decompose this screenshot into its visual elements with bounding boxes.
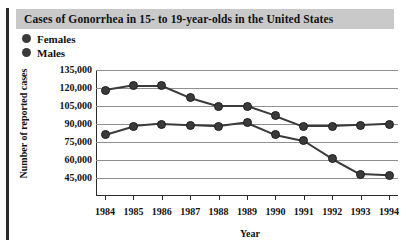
- data-point-females: [129, 81, 138, 90]
- y-axis-tick-label: 60,000: [34, 154, 92, 165]
- gridline: [96, 142, 398, 143]
- data-point-females: [186, 93, 195, 102]
- data-point-females: [328, 122, 337, 131]
- legend-label-females: Females: [37, 33, 75, 45]
- data-point-males: [271, 130, 280, 139]
- plot-area: [96, 70, 398, 187]
- chart-legend: Females Males: [22, 32, 75, 60]
- data-point-males: [356, 170, 365, 179]
- x-axis-tick: [105, 195, 106, 200]
- chart-title: Cases of Gonorrhea in 15- to 19-year-old…: [24, 10, 396, 28]
- data-point-males: [157, 120, 166, 129]
- data-point-females: [243, 102, 252, 111]
- gridline: [96, 88, 398, 89]
- y-axis-tick-label: 105,000: [34, 100, 92, 111]
- x-axis-tick: [247, 195, 248, 200]
- circle-marker-icon: [22, 34, 31, 43]
- chart-figure: Cases of Gonorrhea in 15- to 19-year-old…: [0, 0, 410, 246]
- data-point-males: [214, 122, 223, 131]
- data-point-females: [385, 120, 394, 129]
- data-point-males: [129, 122, 138, 131]
- x-axis-title: Year: [95, 228, 405, 239]
- x-axis-tick: [275, 195, 276, 200]
- x-axis-tick-label: 1994: [369, 206, 409, 217]
- x-axis-tick: [361, 195, 362, 200]
- x-axis-tick: [219, 195, 220, 200]
- data-point-males: [101, 130, 110, 139]
- x-axis-tick: [133, 195, 134, 200]
- y-axis-tick-label: 45,000: [34, 172, 92, 183]
- y-axis-tick-label: 75,000: [34, 136, 92, 147]
- y-axis-title: Number of reported cases: [18, 60, 29, 188]
- circle-marker-icon: [22, 48, 31, 57]
- x-axis-tick: [304, 195, 305, 200]
- data-point-males: [186, 121, 195, 130]
- data-point-males: [328, 154, 337, 163]
- x-axis-tick: [190, 195, 191, 200]
- left-border-rule: [6, 8, 9, 240]
- data-point-females: [299, 122, 308, 131]
- y-axis-tick-label: 120,000: [34, 82, 92, 93]
- x-axis-tick: [389, 195, 390, 200]
- gridline: [96, 70, 398, 71]
- data-point-males: [385, 171, 394, 180]
- gridline: [96, 178, 398, 179]
- y-axis-tick-label: 135,000: [34, 64, 92, 75]
- data-point-females: [356, 121, 365, 130]
- x-axis-tick: [332, 195, 333, 200]
- data-point-males: [243, 118, 252, 127]
- legend-label-males: Males: [37, 47, 65, 59]
- data-point-females: [271, 111, 280, 120]
- data-point-females: [101, 86, 110, 95]
- x-axis-tick: [162, 195, 163, 200]
- gridline: [96, 160, 398, 161]
- legend-item-males: Males: [22, 46, 75, 59]
- legend-item-females: Females: [22, 32, 75, 45]
- y-axis-tick-label: 90,000: [34, 118, 92, 129]
- data-point-females: [214, 102, 223, 111]
